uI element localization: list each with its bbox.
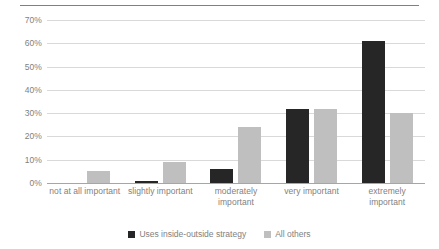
legend-item[interactable]: All others: [264, 229, 310, 239]
value-axis-tick-label: 10%: [25, 155, 42, 164]
category-label: very important: [274, 186, 350, 207]
bar: [135, 181, 158, 183]
value-axis-baseline: 0%: [47, 183, 425, 184]
top-divider-rule: [20, 5, 419, 6]
legend-item[interactable]: Uses inside-outside strategy: [128, 229, 246, 239]
chart-legend: Uses inside-outside strategyAll others: [0, 229, 439, 239]
category-axis-labels: not at all importantslightly importantmo…: [47, 186, 425, 207]
plot-area: 70%60%50%40%30%20%10%0%: [47, 20, 425, 183]
bar: [314, 109, 337, 184]
category-label: slightly important: [123, 186, 199, 207]
legend-label: All others: [275, 229, 310, 239]
category-label: moderately important: [198, 186, 274, 207]
bar-groups: [47, 20, 425, 183]
value-axis-tick-label: 40%: [25, 86, 42, 95]
bar-group: [47, 20, 123, 183]
value-axis-tick-label: 70%: [25, 16, 42, 25]
bar-group: [274, 20, 350, 183]
value-axis-tick-label: 30%: [25, 109, 42, 118]
bar: [390, 113, 413, 183]
legend-swatch-icon: [264, 231, 271, 238]
bar: [210, 169, 233, 183]
bar: [163, 162, 186, 183]
legend-label: Uses inside-outside strategy: [139, 229, 246, 239]
category-label: extremely important: [349, 186, 425, 207]
bar-group: [198, 20, 274, 183]
bar: [362, 41, 385, 183]
bar-chart: 70%60%50%40%30%20%10%0% not at all impor…: [0, 0, 439, 249]
bar-group: [349, 20, 425, 183]
bar: [238, 127, 261, 183]
bar: [87, 171, 110, 183]
bar-group: [123, 20, 199, 183]
bar: [286, 109, 309, 184]
value-axis-tick-label: 50%: [25, 62, 42, 71]
category-label: not at all important: [47, 186, 123, 207]
legend-swatch-icon: [128, 231, 135, 238]
value-axis-tick-label: 20%: [25, 132, 42, 141]
value-axis-tick-label: 60%: [25, 39, 42, 48]
value-axis-tick-label: 0%: [30, 179, 43, 188]
